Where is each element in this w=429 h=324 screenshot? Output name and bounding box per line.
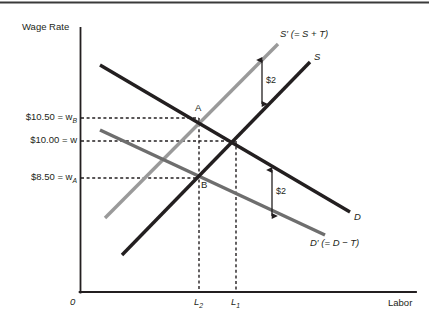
x-tick-label-l2-subscript: 2 <box>199 302 203 309</box>
wage-label-wa-subscript: A <box>72 177 77 184</box>
curve-label-demand-shifted: D′ (= D − T) <box>310 238 359 248</box>
curve-demand-shifted <box>100 130 325 235</box>
wage-label-w-text: $10.00 = w <box>30 134 77 145</box>
y-axis-label: Wage Rate <box>22 22 69 32</box>
wage-label-wb-subscript: B <box>72 117 77 124</box>
x-axis-label: Labor <box>388 298 412 308</box>
x-tick-label-l1: L1 <box>231 297 240 309</box>
wage-label-w: $10.00 = w <box>0 135 77 147</box>
curve-label-demand: D <box>354 212 361 222</box>
wage-label-wb: $10.50 = wB <box>0 112 77 124</box>
tax-incidence-diagram: Wage Rate Labor 0 $10.50 = wB $10.00 = w… <box>0 0 429 324</box>
annotation-tax-wedge-demand: $2 <box>276 187 286 196</box>
diagram-canvas <box>0 0 429 324</box>
curve-label-supply-shifted: S′ (= S + T) <box>280 29 328 39</box>
point-label-b: B <box>201 180 207 190</box>
origin-label: 0 <box>70 297 75 307</box>
curve-label-supply: S <box>314 52 320 62</box>
x-tick-label-l2: L2 <box>194 297 203 309</box>
curve-supply <box>122 62 310 255</box>
wage-label-wa-text: $8.50 = w <box>31 171 72 182</box>
wage-label-wb-text: $10.50 = w <box>26 111 73 122</box>
wage-label-wa: $8.50 = wA <box>0 172 77 184</box>
point-label-a: A <box>195 103 201 113</box>
annotation-tax-wedge-supply: $2 <box>266 76 276 85</box>
curve-supply-shifted <box>105 44 278 218</box>
x-tick-label-l1-subscript: 1 <box>236 302 240 309</box>
